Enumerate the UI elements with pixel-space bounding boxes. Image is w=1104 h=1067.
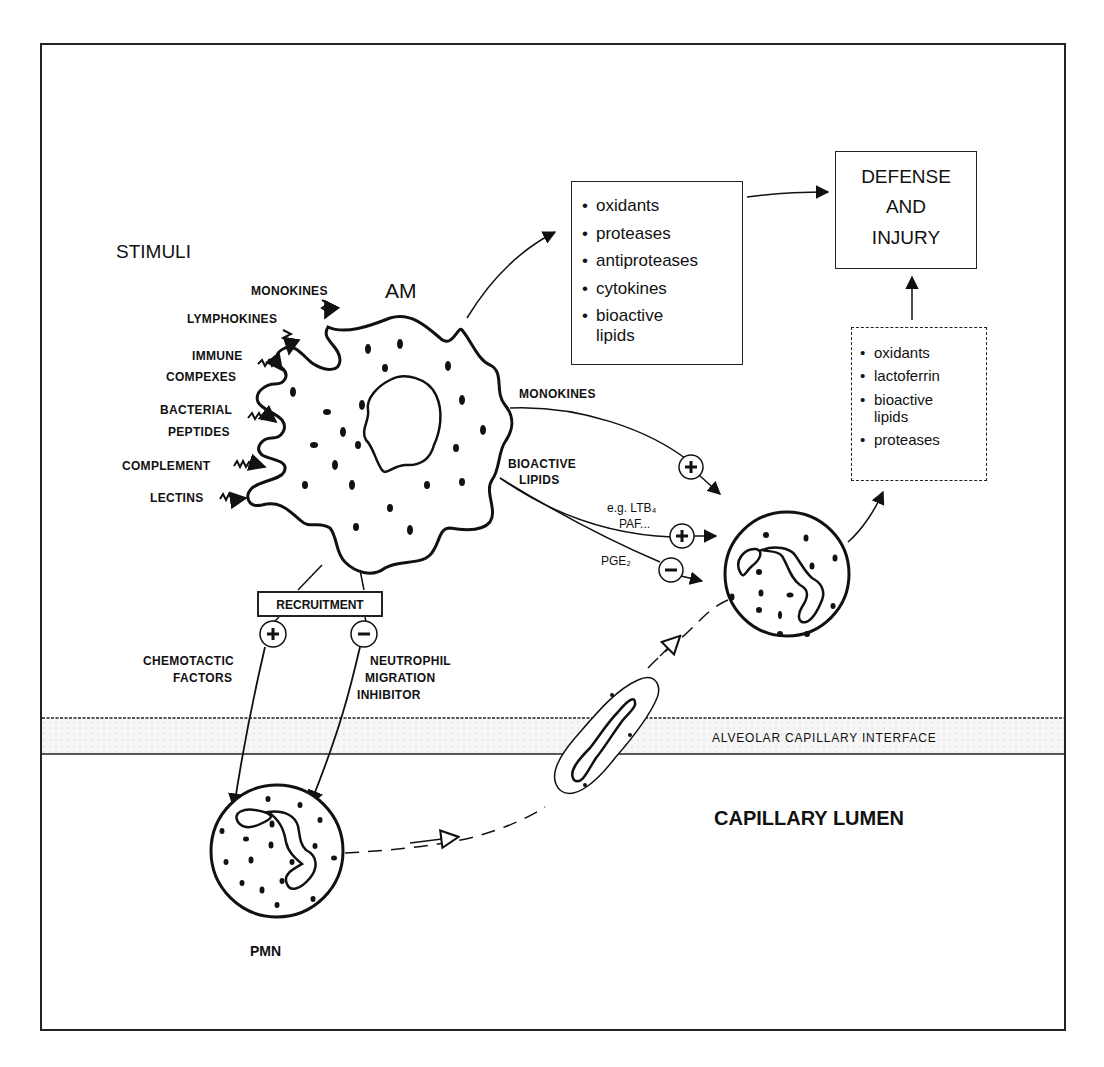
chemotactic-label: CHEMOTACTIC — [143, 655, 234, 667]
outcome-line: DEFENSE — [836, 162, 976, 192]
outcome-line: AND — [836, 192, 976, 222]
stimulus-lectins: LECTINS — [150, 492, 203, 504]
products-to-defense-arrow — [747, 192, 828, 197]
pmn-product-item: oxidants — [858, 344, 978, 361]
pmn-to-products-arrow — [848, 492, 883, 542]
neutrophil-label: NEUTROPHIL — [370, 655, 451, 667]
defense-injury-box: DEFENSE AND INJURY — [835, 151, 977, 269]
pmn-product-item: proteases — [858, 431, 978, 448]
outcome-line: INJURY — [836, 223, 976, 253]
capillary-lumen-label: CAPILLARY LUMEN — [714, 808, 904, 828]
migration-label: MIGRATION — [365, 672, 435, 684]
pmn-products-box: oxidants lactoferrin bioactive lipids pr… — [851, 327, 987, 481]
stimulus-peptides: PEPTIDES — [168, 426, 230, 438]
stimuli-heading: STIMULI — [116, 242, 191, 261]
am-product-item: bioactive lipids — [580, 306, 696, 345]
mediator-monokines: MONOKINES — [519, 388, 596, 400]
factors-label: FACTORS — [173, 672, 232, 684]
am-products-box: oxidants proteases antiproteases cytokin… — [571, 181, 743, 365]
interface-label: ALVEOLAR CAPILLARY INTERFACE — [712, 732, 936, 744]
monokines-curve — [510, 408, 690, 462]
inhibitor-label: INHIBITOR — [357, 689, 421, 701]
alveolar-macrophage-cell — [248, 316, 512, 573]
pmn-product-item: lactoferrin — [858, 367, 978, 384]
stimulus-immune: IMMUNE — [192, 350, 242, 362]
stimulus-lymphokines: LYMPHOKINES — [187, 313, 277, 325]
stimulus-monokines: MONOKINES — [251, 285, 328, 297]
am-to-products-arrow — [467, 232, 555, 318]
stimulus-bacterial: BACTERIAL — [160, 404, 232, 416]
mediator-bioactive: BIOACTIVE — [508, 458, 576, 470]
tissue-neutrophil-cell — [725, 512, 849, 637]
am-product-item: proteases — [580, 224, 734, 244]
pmn-label: PMN — [250, 944, 281, 958]
migration-path-upper — [648, 600, 728, 668]
mediator-ltb4: e.g. LTB₄ — [607, 502, 656, 514]
am-product-item: antiproteases — [580, 251, 734, 271]
am-product-item: cytokines — [580, 279, 734, 299]
mediator-paf: PAF... — [619, 518, 650, 530]
pmn-product-item: bioactive lipids — [858, 391, 954, 426]
mediator-lipids: LIPIDS — [519, 474, 559, 486]
stimulus-complexes: COMPEXES — [166, 371, 236, 383]
am-product-item: oxidants — [580, 196, 734, 216]
mediator-pge2: PGE₂ — [601, 555, 631, 567]
recruitment-box: RECRUITMENT — [257, 591, 383, 617]
migration-path-lower — [345, 807, 545, 853]
am-label: AM — [385, 280, 417, 301]
capillary-neutrophil-cell — [211, 785, 343, 917]
stimulus-complement: COMPLEMENT — [122, 460, 210, 472]
